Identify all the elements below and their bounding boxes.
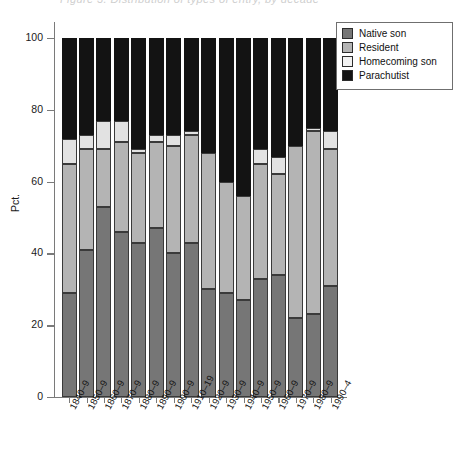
bar-segment-parachutist <box>62 38 77 139</box>
bar-segment-resident <box>184 135 199 243</box>
bar-segment-resident <box>131 153 146 243</box>
legend-swatch-icon <box>342 56 353 67</box>
legend-label: Homecoming son <box>359 56 437 67</box>
bar-stack <box>201 22 216 397</box>
bar-stack <box>306 22 321 397</box>
bar-segment-homecoming <box>149 135 164 142</box>
bar-segment-parachutist <box>79 38 94 135</box>
bar-segment-resident <box>166 146 181 254</box>
y-axis-tick-label: 100 <box>0 31 43 43</box>
bar-segment-resident <box>236 196 251 300</box>
bar-segment-parachutist <box>288 38 303 146</box>
legend-item-native-son[interactable]: Native son <box>342 28 447 39</box>
legend-label: Parachutist <box>359 70 409 81</box>
bar-segment-homecoming <box>306 128 321 132</box>
bar-segment-parachutist <box>201 38 216 153</box>
legend-swatch-icon <box>342 28 353 39</box>
bar-segment-homecoming <box>166 135 181 146</box>
bar-segment-parachutist <box>166 38 181 135</box>
bar-segment-homecoming <box>114 121 129 143</box>
bar-segment-homecoming <box>62 139 77 164</box>
bar-segment-resident <box>114 142 129 232</box>
legend-label: Native son <box>359 28 406 39</box>
bar-stack <box>253 22 268 397</box>
y-axis-tick-label: 20 <box>0 318 43 330</box>
bar-stack <box>288 22 303 397</box>
bar-segment-homecoming <box>184 131 199 135</box>
bar-segment-native <box>131 243 146 397</box>
bar-segment-parachutist <box>184 38 199 131</box>
chart-legend: Native son Resident Homecoming son Parac… <box>336 22 453 90</box>
bar-segment-parachutist <box>253 38 268 149</box>
bar-stack <box>184 22 199 397</box>
y-axis-tick-label: 80 <box>0 103 43 115</box>
legend-swatch-icon <box>342 42 353 53</box>
bar-stack <box>166 22 181 397</box>
bar-segment-parachutist <box>219 38 234 182</box>
bar-stack <box>79 22 94 397</box>
bar-stack <box>131 22 146 397</box>
bar-stack <box>236 22 251 397</box>
y-axis-title: Pct. <box>9 183 23 223</box>
bar-segment-resident <box>96 149 111 206</box>
bar-stack <box>96 22 111 397</box>
bar-stack <box>149 22 164 397</box>
bar-segment-homecoming <box>79 135 94 149</box>
bar-segment-resident <box>306 131 321 314</box>
bar-segment-parachutist <box>131 38 146 149</box>
bar-segment-parachutist <box>149 38 164 135</box>
bar-segment-homecoming <box>253 149 268 163</box>
bar-segment-resident <box>62 164 77 293</box>
bar-segment-resident <box>288 146 303 318</box>
legend-item-resident[interactable]: Resident <box>342 42 447 53</box>
bar-segment-resident <box>323 149 338 285</box>
y-axis-tick-label: 40 <box>0 246 43 258</box>
bar-segment-resident <box>253 164 268 279</box>
bar-segment-resident <box>201 153 216 289</box>
bar-segment-native <box>149 228 164 397</box>
bar-stack <box>114 22 129 397</box>
bar-segment-native <box>96 207 111 397</box>
bar-stack <box>271 22 286 397</box>
y-axis-tick-label: 0 <box>0 390 43 402</box>
bar-segment-homecoming <box>323 131 338 149</box>
bar-stack <box>62 22 77 397</box>
bar-segment-native <box>62 293 77 397</box>
legend-label: Resident <box>359 42 398 53</box>
bar-segment-homecoming <box>271 157 286 175</box>
chart-figure: Figure 3. Distribution of types of entry… <box>0 0 457 452</box>
bar-segment-parachutist <box>236 38 251 196</box>
bar-segment-resident <box>149 142 164 228</box>
plot-area <box>54 22 347 397</box>
bar-segment-resident <box>79 149 94 250</box>
bar-segment-parachutist <box>306 38 321 128</box>
legend-item-homecoming-son[interactable]: Homecoming son <box>342 56 447 67</box>
bar-segment-parachutist <box>114 38 129 121</box>
bar-segment-resident <box>219 182 234 293</box>
bar-segment-native <box>79 250 94 397</box>
bar-segment-native <box>114 232 129 397</box>
legend-swatch-icon <box>342 70 353 81</box>
bar-segment-native <box>166 253 181 397</box>
bar-segment-homecoming <box>131 149 146 153</box>
bar-segment-homecoming <box>96 121 111 150</box>
bar-segment-native <box>184 243 199 397</box>
figure-title: Figure 3. Distribution of types of entry… <box>60 0 360 7</box>
y-axis-tick <box>47 397 55 398</box>
bar-segment-resident <box>271 174 286 275</box>
bar-segment-parachutist <box>271 38 286 157</box>
bar-stack <box>219 22 234 397</box>
legend-item-parachutist[interactable]: Parachutist <box>342 70 447 81</box>
bar-segment-parachutist <box>96 38 111 121</box>
